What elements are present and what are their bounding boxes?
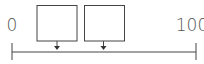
axis-max-label: 100 <box>176 15 204 35</box>
box-2-arrow-icon <box>101 46 107 50</box>
number-line-diagram: 0 100 <box>0 0 204 64</box>
axis-min-label: 0 <box>7 15 18 35</box>
box-1-arrow-icon <box>54 46 60 50</box>
answer-box-1[interactable] <box>37 6 77 42</box>
answer-box-2[interactable] <box>85 6 125 42</box>
